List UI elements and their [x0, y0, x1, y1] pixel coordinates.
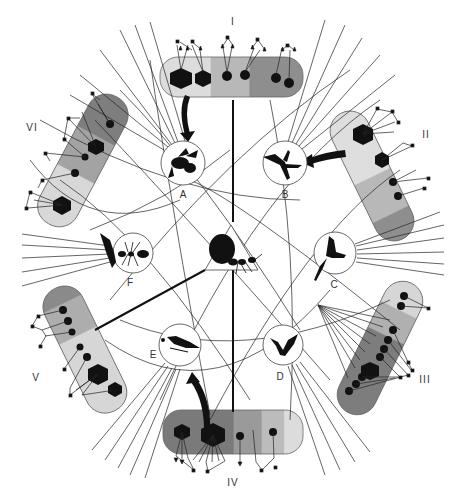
network-diagram: A B C D E: [0, 0, 466, 504]
plant-band-II: [323, 104, 420, 247]
species-label-C: C: [330, 279, 337, 290]
band-label-V: V: [32, 372, 40, 383]
plant-band-III: [330, 275, 429, 422]
species-label-D: D: [276, 371, 283, 382]
plant-band-VI: [31, 87, 136, 234]
species-node-E[interactable]: E: [150, 324, 201, 366]
species-label-E: E: [150, 349, 157, 360]
band-label-VI: VI: [26, 122, 37, 133]
band-label-III: III: [419, 374, 430, 385]
species-node-A[interactable]: A: [161, 141, 205, 200]
species-node-C[interactable]: C: [314, 232, 356, 290]
species-node-B[interactable]: B: [263, 141, 307, 200]
band-label-I: I: [231, 16, 235, 27]
arrow-I-to-A: [180, 95, 195, 142]
band-label-IV: IV: [227, 477, 238, 488]
species-node-D[interactable]: D: [263, 325, 303, 382]
plant-band-V: [36, 279, 133, 420]
center-node[interactable]: [205, 225, 262, 274]
species-label-F: F: [127, 277, 133, 288]
species-label-A: A: [180, 189, 187, 200]
band-label-II: II: [422, 129, 430, 140]
species-label-B: B: [282, 189, 289, 200]
species-node-F[interactable]: F: [100, 233, 153, 288]
